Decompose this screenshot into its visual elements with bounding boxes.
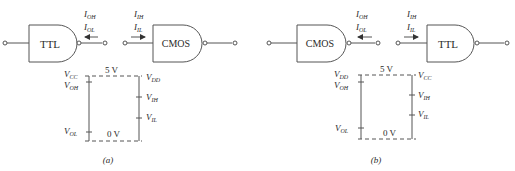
voltage-levels-b: 5 V 0 V VDD VOH VOL VCC VIH VIL — [334, 64, 433, 139]
output-currents-a: IOH IOL — [83, 9, 98, 37]
panel-caption: (b) — [371, 155, 382, 165]
gate-label: TTL — [40, 38, 60, 50]
input-currents-a: IIH IIL — [131, 9, 145, 37]
output-currents-b: IOH IOL — [355, 9, 372, 37]
panel-caption: (a) — [103, 155, 114, 165]
current-label-iol: IOL — [355, 22, 367, 33]
bottom-voltage-label: 0 V — [107, 129, 121, 139]
level-label-vil: VIL — [146, 112, 157, 123]
inverter-bubble-icon — [475, 41, 479, 45]
gate-label: CMOS — [162, 38, 190, 49]
gate-label: CMOS — [306, 38, 334, 49]
current-label-iol: IOL — [83, 22, 95, 33]
input-terminal-icon — [396, 41, 400, 45]
input-terminal-icon — [123, 41, 127, 45]
inverter-bubble-icon — [347, 41, 351, 45]
output-terminal-icon — [103, 41, 107, 45]
level-label-vih: VIH — [418, 90, 430, 101]
figure-canvas: TTL IOH IOL CMOS IIH IIL — [0, 0, 515, 171]
output-terminal-icon — [233, 41, 237, 45]
inverter-bubble-icon — [203, 41, 207, 45]
level-label-vil: VIL — [418, 109, 429, 120]
level-label-vcc: VCC — [418, 70, 433, 81]
level-label-vih: VIH — [146, 92, 158, 103]
input-currents-b: IIH IIL — [404, 9, 418, 37]
input-terminal-icon — [267, 41, 271, 45]
level-label-vol: VOL — [335, 123, 349, 134]
inverter-bubble-icon — [77, 41, 81, 45]
voltage-levels-a: 5 V 0 V VCC VOH VOL VDD VIH VIL — [64, 65, 161, 141]
current-label-iih: IIH — [406, 9, 417, 20]
top-voltage-label: 5 V — [380, 64, 394, 74]
current-label-ioh: IOH — [355, 9, 368, 20]
gate-label: TTL — [438, 38, 458, 50]
level-label-vdd: VDD — [334, 69, 349, 80]
level-label-vol: VOL — [64, 126, 78, 137]
current-label-iil: IIL — [406, 22, 416, 33]
logic-interface-diagram: TTL IOH IOL CMOS IIH IIL — [0, 0, 515, 171]
panel-a: TTL IOH IOL CMOS IIH IIL — [3, 9, 237, 165]
current-label-iih: IIH — [133, 9, 144, 20]
input-terminal-icon — [3, 41, 7, 45]
panel-b: CMOS IOH IOL TTL IIH IIL — [267, 9, 509, 165]
current-label-ioh: IOH — [83, 9, 96, 20]
output-terminal-icon — [505, 41, 509, 45]
level-label-vcc: VCC — [64, 69, 79, 80]
output-terminal-icon — [376, 41, 380, 45]
level-label-voh: VOH — [64, 80, 79, 91]
level-label-voh: VOH — [334, 80, 349, 91]
level-label-vdd: VDD — [146, 72, 161, 83]
current-label-iil: IIL — [133, 22, 143, 33]
bottom-voltage-label: 0 V — [383, 128, 397, 138]
top-voltage-label: 5 V — [105, 65, 119, 75]
